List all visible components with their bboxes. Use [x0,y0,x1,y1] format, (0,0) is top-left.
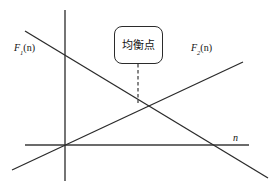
axis-label-n: n [233,132,238,143]
curve-f2 [12,62,243,170]
equilibrium-callout-label: 均衡点 [122,40,155,51]
equilibrium-callout-box: 均衡点 [114,26,163,64]
curve-label-f2-paren: (n) [200,42,212,53]
curve-label-f2-subscript: 2 [197,49,200,56]
curve-label-f1: F1(n) [14,42,35,55]
curve-label-f1-subscript: 1 [20,49,23,56]
curve-label-f1-paren: (n) [23,42,35,53]
curve-label-f2: F2(n) [191,42,212,55]
